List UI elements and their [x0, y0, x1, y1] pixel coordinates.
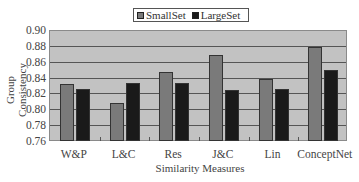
y-tick-label: 0.84: [10, 72, 46, 84]
x-tick-label: Res: [148, 148, 198, 160]
x-tick-mark: [298, 137, 299, 141]
x-tick-mark: [100, 137, 101, 141]
legend-swatch-smallset: [137, 12, 144, 19]
gridline: [50, 78, 346, 79]
legend-swatch-largeset: [192, 12, 199, 19]
gridline: [50, 93, 346, 94]
y-tick-label: 0.78: [10, 119, 46, 131]
bar-smallset-0: [60, 84, 74, 141]
bar-smallset-1: [110, 103, 124, 141]
y-tick-label: 0.90: [10, 24, 46, 36]
gridline: [50, 46, 346, 47]
gridline: [50, 62, 346, 63]
legend-label-largeset: LargeSet: [201, 8, 241, 22]
y-tick-label: 0.80: [10, 103, 46, 115]
x-tick-label: L&C: [99, 148, 149, 160]
legend: SmallSet LargeSet: [133, 8, 249, 22]
bar-largeset-3: [225, 90, 239, 141]
bar-smallset-5: [308, 47, 322, 141]
bar-largeset-5: [324, 70, 338, 141]
bar-smallset-3: [209, 55, 223, 141]
y-tick-label: 0.76: [10, 135, 46, 147]
gridline: [50, 109, 346, 110]
y-tick-label: 0.86: [10, 56, 46, 68]
legend-label-smallset: SmallSet: [146, 8, 186, 22]
bar-smallset-2: [159, 72, 173, 141]
gridline: [50, 125, 346, 126]
x-tick-label: W&P: [49, 148, 99, 160]
bar-largeset-2: [175, 83, 189, 141]
y-tick-label: 0.82: [10, 87, 46, 99]
x-tick-mark: [249, 137, 250, 141]
bar-largeset-0: [76, 89, 90, 141]
legend-item-smallset: SmallSet: [137, 8, 186, 22]
plot-area: [49, 30, 347, 141]
bar-chart: SmallSet LargeSet Group Consistency 0.90…: [0, 0, 359, 182]
bar-largeset-1: [126, 83, 140, 141]
y-tick-label: 0.88: [10, 40, 46, 52]
x-tick-label: Lin: [248, 148, 298, 160]
x-tick-label: J&C: [198, 148, 248, 160]
bar-smallset-4: [259, 79, 273, 141]
bar-largeset-4: [275, 89, 289, 141]
x-tick-mark: [149, 137, 150, 141]
x-tick-label: ConceptNet: [297, 148, 347, 160]
x-axis-label: Similarity Measures: [150, 162, 250, 174]
legend-item-largeset: LargeSet: [192, 8, 241, 22]
x-tick-mark: [199, 137, 200, 141]
